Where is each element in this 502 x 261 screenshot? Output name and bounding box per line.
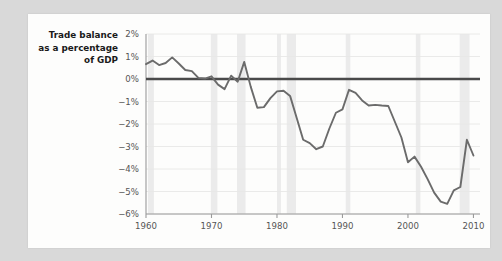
x-tick-label-2: 1980 <box>266 221 288 231</box>
y-tick-label-7: −5% <box>118 187 139 197</box>
x-tick-label-5: 2010 <box>463 221 485 231</box>
y-tick-label-0: 2% <box>125 29 139 39</box>
x-axis-ticks <box>146 214 473 218</box>
gridlines-group <box>146 34 480 214</box>
y-tick-label-2: 0% <box>125 74 139 84</box>
chart-title-line-1: as a percentage <box>38 43 118 53</box>
y-tick-label-5: −3% <box>118 142 139 152</box>
chart-title-line-2: of GDP <box>84 55 118 65</box>
x-tick-label-4: 2000 <box>397 221 419 231</box>
y-tick-label-3: −1% <box>118 97 139 107</box>
x-tick-label-1: 1970 <box>201 221 223 231</box>
y-tick-label-6: −4% <box>118 164 139 174</box>
x-tick-labels: 196019701980199020002010 <box>135 221 484 231</box>
page-root: 2%1%0%−1%−2%−3%−4%−5%−6% 196019701980199… <box>0 0 502 261</box>
chart-title-line-0: Trade balance <box>49 30 118 40</box>
chart-figure: 2%1%0%−1%−2%−3%−4%−5%−6% 196019701980199… <box>28 14 490 248</box>
y-tick-label-1: 1% <box>125 52 139 62</box>
y-tick-labels: 2%1%0%−1%−2%−3%−4%−5%−6% <box>118 29 139 219</box>
x-tick-label-0: 1960 <box>135 221 157 231</box>
chart-card: 2%1%0%−1%−2%−3%−4%−5%−6% 196019701980199… <box>28 14 490 248</box>
trade-balance-line-chart: 2%1%0%−1%−2%−3%−4%−5%−6% 196019701980199… <box>28 14 490 248</box>
y-tick-label-4: −2% <box>118 119 139 129</box>
y-tick-label-8: −6% <box>118 209 139 219</box>
x-tick-label-3: 1990 <box>332 221 354 231</box>
chart-title: Trade balanceas a percentageof GDP <box>38 30 118 65</box>
